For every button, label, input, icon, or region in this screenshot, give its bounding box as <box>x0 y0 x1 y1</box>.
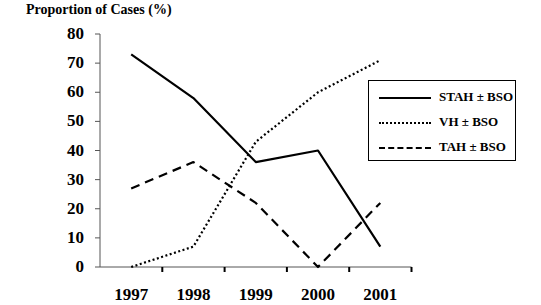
legend-entry-stah: STAH ± BSO <box>369 87 515 107</box>
y-tick-label: 20 <box>44 200 84 217</box>
legend-label: STAH ± BSO <box>439 89 513 105</box>
x-tick-label: 1999 <box>225 286 287 303</box>
x-tick-label: 2000 <box>287 286 349 303</box>
x-tick-label: 1997 <box>100 286 162 303</box>
dotted-line-swatch-icon <box>379 122 431 124</box>
y-tick-label: 60 <box>44 83 84 100</box>
y-tick-label: 70 <box>44 54 84 71</box>
axes <box>95 34 412 272</box>
series-line-dashed <box>131 162 380 267</box>
legend-label: VH ± BSO <box>439 114 498 130</box>
y-tick-label: 40 <box>44 142 84 159</box>
y-tick-label: 50 <box>44 112 84 129</box>
series-line-solid <box>131 54 380 246</box>
solid-line-swatch-icon <box>379 97 431 99</box>
y-tick-label: 30 <box>44 171 84 188</box>
legend-entry-tah: TAH ± BSO <box>369 137 515 157</box>
x-tick-label: 2001 <box>349 286 411 303</box>
legend-label: TAH ± BSO <box>439 139 506 155</box>
series-lines <box>131 54 380 267</box>
legend: STAH ± BSO VH ± BSO TAH ± BSO <box>368 80 516 161</box>
y-tick-label: 0 <box>44 258 84 275</box>
series-line-dotted <box>131 60 380 267</box>
dashed-line-swatch-icon <box>379 147 431 149</box>
legend-entry-vh: VH ± BSO <box>369 112 515 132</box>
x-tick-label: 1998 <box>162 286 224 303</box>
y-tick-label: 80 <box>44 25 84 42</box>
y-tick-label: 10 <box>44 229 84 246</box>
